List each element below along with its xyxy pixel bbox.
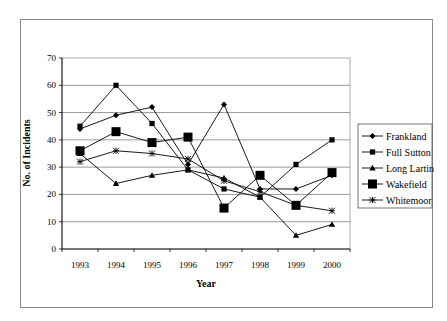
y-tick-label: 40 xyxy=(47,135,57,145)
star-marker-icon xyxy=(293,202,299,208)
y-tick-label: 0 xyxy=(52,244,57,254)
large-square-marker-icon xyxy=(368,180,377,189)
square-marker-icon xyxy=(293,162,298,167)
diamond-marker-icon xyxy=(293,186,299,192)
series-whitemoor xyxy=(77,148,335,214)
series-layer xyxy=(76,83,337,238)
square-marker-icon xyxy=(329,137,334,142)
gridlines xyxy=(62,85,350,221)
x-tick-label: 1995 xyxy=(143,260,162,270)
large-square-marker-icon xyxy=(256,171,265,180)
legend-label: Wakefield xyxy=(386,179,427,190)
x-tick-label: 1993 xyxy=(71,260,90,270)
x-tick-label: 1996 xyxy=(179,260,198,270)
square-marker-icon xyxy=(221,186,226,191)
y-axis-title: No. of Incidents xyxy=(21,119,32,187)
x-tick-label: 1999 xyxy=(287,260,306,270)
star-marker-icon xyxy=(370,197,376,203)
diamond-marker-icon xyxy=(221,101,227,107)
y-axis: 010203040506070 xyxy=(47,53,62,254)
x-tick-label: 1998 xyxy=(251,260,270,270)
square-marker-icon xyxy=(370,149,375,154)
y-tick-label: 20 xyxy=(47,189,57,199)
legend-label: Whitemoor xyxy=(386,195,432,206)
y-tick-label: 60 xyxy=(47,80,57,90)
star-marker-icon xyxy=(185,156,191,162)
legend: FranklandFull SuttonLong LartinWakefield… xyxy=(358,124,434,208)
plot-area xyxy=(62,58,350,249)
star-marker-icon xyxy=(77,158,83,164)
large-square-marker-icon xyxy=(76,146,85,155)
y-tick-label: 30 xyxy=(47,162,57,172)
square-marker-icon xyxy=(77,124,82,129)
diamond-marker-icon xyxy=(149,104,155,110)
large-square-marker-icon xyxy=(328,168,337,177)
series-line xyxy=(80,104,332,189)
square-marker-icon xyxy=(149,121,154,126)
large-square-marker-icon xyxy=(220,204,229,213)
large-square-marker-icon xyxy=(148,138,157,147)
large-square-marker-icon xyxy=(184,133,193,142)
y-tick-label: 10 xyxy=(47,217,57,227)
y-tick-label: 50 xyxy=(47,108,57,118)
star-marker-icon xyxy=(257,189,263,195)
series-line xyxy=(80,85,332,197)
legend-label: Full Sutton xyxy=(386,147,431,158)
legend-item: Wakefield xyxy=(362,179,427,190)
star-marker-icon xyxy=(113,148,119,154)
legend-label: Frankland xyxy=(386,131,427,142)
x-tick-label: 2000 xyxy=(323,260,342,270)
legend-label: Long Lartin xyxy=(386,163,434,174)
series-frankland xyxy=(77,101,335,192)
y-tick-label: 70 xyxy=(47,53,57,63)
x-axis-title: Year xyxy=(196,278,217,289)
star-marker-icon xyxy=(149,150,155,156)
diamond-marker-icon xyxy=(113,112,119,118)
line-chart: 010203040506070 199319941995199619971998… xyxy=(0,0,447,321)
star-marker-icon xyxy=(329,208,335,214)
large-square-marker-icon xyxy=(112,127,121,136)
x-axis: 19931994199519961997199819992000 xyxy=(62,249,350,270)
x-tick-label: 1994 xyxy=(107,260,126,270)
square-marker-icon xyxy=(113,83,118,88)
star-marker-icon xyxy=(221,178,227,184)
x-tick-label: 1997 xyxy=(215,260,234,270)
